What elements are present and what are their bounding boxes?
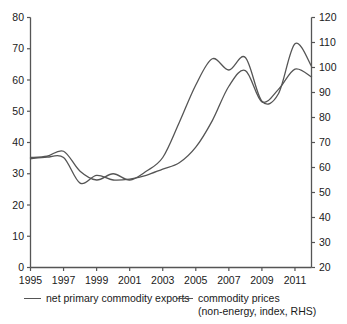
y-left-tick-80: 80 [2,12,24,23]
legend-line-swatch-icon [176,298,193,299]
y-left-tick-30: 30 [2,168,24,179]
y-left-tick-10: 10 [2,231,24,242]
y-left-tick-50: 50 [2,106,24,117]
y-left-tick-20: 20 [2,200,24,211]
y-right-tick-60: 60 [319,162,343,173]
y-right-tick-50: 50 [319,187,343,198]
y-left-tick-70: 70 [2,43,24,54]
y-left-tick-60: 60 [2,75,24,86]
x-tick-1997: 1997 [47,275,81,286]
y-right-tick-30: 30 [319,237,343,248]
y-right-tick-120: 120 [319,12,343,23]
x-tick-2011: 2011 [278,275,312,286]
y-right-tick-100: 100 [319,62,343,73]
x-tick-1999: 1999 [80,275,114,286]
x-tick-2005: 2005 [179,275,213,286]
y-right-tick-70: 70 [319,137,343,148]
y-left-tick-40: 40 [2,137,24,148]
x-tick-1995: 1995 [14,275,48,286]
y-right-tick-40: 40 [319,212,343,223]
y-right-tick-90: 90 [319,87,343,98]
y-right-tick-20: 20 [319,262,343,273]
legend-sublabel-prices: (non-energy, index, RHS) [198,305,316,317]
x-tick-2009: 2009 [245,275,279,286]
legend-item-net-primary-commodity-exports: net primary commodity exports [24,292,190,305]
legend-label-prices: commodity prices [198,292,280,304]
x-tick-2003: 2003 [146,275,180,286]
legend-item-commodity-prices: commodity prices (non-energy, index, RHS… [176,292,316,317]
y-right-tick-80: 80 [319,112,343,123]
legend-label-exports: net primary commodity exports [46,292,190,304]
chart-figure: 01020304050607080 2030405060708090100110… [0,0,347,324]
y-right-tick-110: 110 [319,37,343,48]
x-tick-2007: 2007 [212,275,246,286]
chart-axes [27,18,315,272]
series-line-0 [31,69,312,184]
chart-legend: net primary commodity exports commodity … [0,292,347,324]
y-left-tick-0: 0 [2,262,24,273]
chart-series-lines [31,43,312,184]
series-line-1 [31,43,312,180]
legend-line-swatch-icon [24,298,41,299]
x-tick-2001: 2001 [113,275,147,286]
